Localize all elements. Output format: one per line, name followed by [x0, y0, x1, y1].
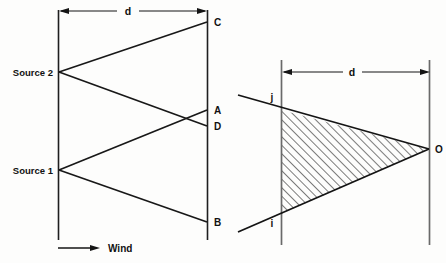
diagram-svg: d Source 2 Source 1 C A D B Wind: [0, 0, 446, 263]
left-panel: d Source 2 Source 1 C A D B Wind: [13, 5, 221, 254]
arrowhead-right: [420, 69, 430, 75]
dimension-label-d-left: d: [125, 5, 131, 17]
point-i-label: i: [271, 218, 274, 229]
dimension-line-d-right: [282, 69, 430, 75]
point-d-label: D: [214, 121, 221, 132]
point-c-label: C: [214, 17, 221, 28]
arrowhead-left: [59, 8, 69, 14]
source-2-label: Source 2: [13, 67, 53, 78]
wind-arrow: [58, 245, 100, 251]
ray-source2-to-d: [59, 72, 207, 126]
hatched-sector: [275, 100, 440, 225]
ray-source1-to-b: [59, 170, 207, 222]
point-j-label: j: [270, 92, 274, 103]
dimension-line-d-left: [59, 8, 207, 14]
point-o-label: O: [435, 144, 443, 155]
arrowhead-right: [197, 8, 207, 14]
arrowhead-left: [282, 69, 292, 75]
wind-label: Wind: [108, 243, 132, 254]
ray-source1-to-a: [59, 110, 207, 170]
right-panel: d j i O: [238, 60, 443, 245]
point-b-label: B: [214, 217, 221, 228]
source-1-label: Source 1: [13, 165, 54, 176]
ray-source2-to-c: [59, 22, 207, 72]
arrowhead-wind: [90, 245, 100, 251]
dimension-label-d-right: d: [349, 66, 355, 78]
point-a-label: A: [214, 105, 221, 116]
figure-canvas: d Source 2 Source 1 C A D B Wind: [0, 0, 446, 263]
